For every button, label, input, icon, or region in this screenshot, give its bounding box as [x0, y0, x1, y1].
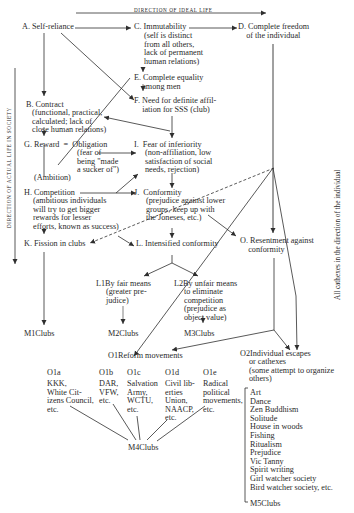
- node-d: D. Complete freedom of the individual: [238, 23, 309, 40]
- node-k: K. Fission in clubs: [24, 240, 85, 249]
- node-e: E. Complete equality among men: [134, 74, 203, 91]
- node-o1: O1Reform movements: [108, 352, 183, 361]
- left-axis-label: DIRECTION OF ACTUAL LIFE IN SOCIETY: [6, 107, 12, 228]
- node-a: A. Self-reliance: [22, 23, 74, 32]
- club-m1: M1Clubs: [24, 330, 54, 339]
- right-axis-label: All cathexes in the direction of the ind…: [334, 170, 342, 300]
- node-g-ambition: (Ambition): [34, 174, 71, 183]
- top-axis-label: DIRECTION OF IDEAL LIFE: [134, 6, 213, 15]
- node-j-detail: (prejudice against lower groups, keep up…: [146, 197, 225, 223]
- reform-text-o1b: DAR, VFW, etc.: [99, 380, 119, 406]
- node-i-detail: (non-affiliation, low satisfaction of so…: [145, 149, 212, 175]
- club-m4: M4Clubs: [128, 444, 158, 453]
- node-l1-detail: (greater pre- judice): [106, 288, 147, 305]
- node-c-detail: (self is distinct from all others, lack …: [144, 32, 203, 66]
- node-b-detail: (functional, practical, calculated; lack…: [32, 109, 106, 135]
- node-l2-detail: to eliminate competition (prejudice as o…: [184, 288, 227, 322]
- node-g-detail: (fear of being "made a sucker of"): [77, 149, 119, 175]
- escapes-list: Art Dance Zen Buddhism Solitude House in…: [250, 389, 333, 492]
- flow-diagram: DIRECTION OF IDEAL LIFE DIRECTION OF ACT…: [0, 0, 354, 513]
- club-m2: M2Clubs: [108, 330, 138, 339]
- reform-id-o1e: O1e: [203, 369, 217, 378]
- node-o: O. Resentment against conformity: [240, 237, 314, 254]
- club-m3: M3Clubs: [184, 330, 214, 339]
- escapes-bracket: [245, 388, 248, 502]
- node-f: F. Need for definite affil- iation for S…: [134, 97, 216, 114]
- reform-id-o1b: O1b: [99, 369, 113, 378]
- reform-text-o1c: Salvation Army, WCTU, etc.: [127, 380, 158, 414]
- club-m5: M5Clubs: [250, 500, 280, 509]
- escape-item: Bird watcher society, etc.: [250, 484, 333, 493]
- node-o2-detail: or cathexes (some attempt to organize ot…: [249, 358, 334, 384]
- reform-id-o1c: O1c: [127, 369, 141, 378]
- reform-id-o1d: O1d: [165, 369, 179, 378]
- node-l: L. Intensified conformity: [136, 240, 219, 249]
- reform-id-o1a: O1a: [47, 369, 61, 378]
- node-h-detail: (ambitious individuals will try to get b…: [33, 197, 119, 231]
- reform-text-o1a: KKK, White Cit- izens Council, etc.: [47, 380, 94, 414]
- reform-text-o1e: Radical political movements, etc.: [203, 380, 243, 414]
- reform-text-o1d: Civil lib- erties Union, NAACP, etc.: [165, 380, 195, 423]
